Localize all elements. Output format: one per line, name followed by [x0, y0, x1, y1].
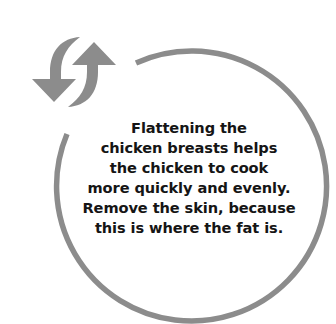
tip-line: more quickly and evenly.	[70, 178, 308, 198]
tip-graphic: Flattening the chicken breasts helps the…	[0, 0, 336, 324]
tip-text: Flattening the chicken breasts helps the…	[70, 118, 308, 238]
tip-line: chicken breasts helps	[70, 138, 308, 158]
refresh-arrows-icon	[28, 32, 120, 112]
tip-line: this is where the fat is.	[70, 218, 308, 238]
tip-line: the chicken to cook	[70, 158, 308, 178]
tip-line: Flattening the	[70, 118, 308, 138]
tip-line: Remove the skin, because	[70, 198, 308, 218]
